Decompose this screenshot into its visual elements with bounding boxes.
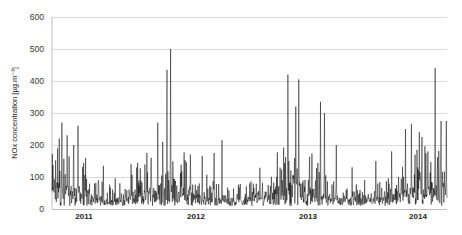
x-tick-label: 2012 [187, 212, 205, 221]
y-tick-label: 200 [30, 140, 44, 150]
y-tick-label: 500 [30, 44, 44, 54]
y-tick-label: 100 [30, 172, 44, 182]
y-tick-label: 300 [30, 108, 44, 118]
x-tick-label: 2011 [75, 212, 92, 221]
nox-time-series-chart [0, 0, 462, 235]
y-tick-label: 600 [30, 12, 44, 22]
gridlines [52, 18, 447, 178]
x-tick-label: 2013 [299, 212, 317, 221]
nox-series-line [52, 49, 447, 206]
x-tick-label: 2014 [409, 212, 427, 221]
y-tick-label: 0 [39, 204, 44, 214]
y-axis-label: NOx concentration [µg.m⁻³] [10, 67, 19, 159]
y-tick-label: 400 [30, 76, 44, 86]
